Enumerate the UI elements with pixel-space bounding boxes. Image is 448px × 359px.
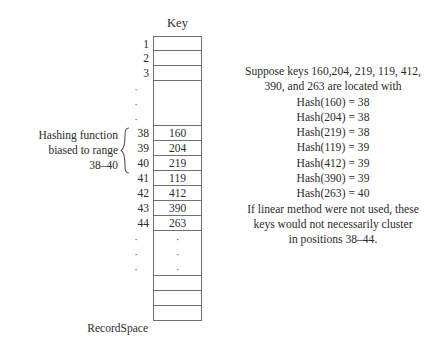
ellipsis-dot: ·: [134, 116, 138, 122]
table-row-last: [153, 306, 202, 321]
row-key-value: 204: [154, 141, 201, 156]
ellipsis-dot: ·: [176, 236, 180, 242]
row-index: 41: [123, 171, 149, 186]
ellipsis-dot: ·: [134, 266, 138, 272]
row-index: 1: [123, 37, 149, 52]
explanation-line-hash-219: Hash(219) = 38: [224, 125, 442, 140]
explanation-line: Suppose keys 160,204, 219, 119, 412,: [224, 64, 442, 79]
row-index: 3: [123, 66, 149, 81]
table-row: 41 119: [153, 171, 202, 186]
hashing-function-line-1: Hashing function: [6, 128, 118, 143]
explanation-line: 390, and 263 are located with: [224, 79, 442, 94]
table-row: 43 390: [153, 201, 202, 216]
table-row: 3: [153, 66, 202, 81]
explanation-line-hash-204: Hash(204) = 38: [224, 110, 442, 125]
row-key-value: 412: [154, 186, 201, 201]
row-key-value: 263: [154, 216, 201, 231]
explanation-line-hash-119: Hash(119) = 39: [224, 140, 442, 155]
hashing-function-line-3: 38–40: [6, 158, 118, 173]
vertical-ellipsis-index-lower: · · ·: [123, 231, 149, 276]
explanation-line-hash-412: Hash(412) = 39: [224, 156, 442, 171]
row-index: 43: [123, 201, 149, 216]
table-row: 2: [153, 51, 202, 66]
ellipsis-dot: ·: [134, 101, 138, 107]
ellipsis-dot: ·: [134, 236, 138, 242]
explanation-line-hash-263: Hash(263) = 40: [224, 186, 442, 201]
explanation-text: Suppose keys 160,204, 219, 119, 412, 390…: [224, 64, 442, 248]
table-row: 39 204: [153, 141, 202, 156]
row-index: 42: [123, 186, 149, 201]
ellipsis-dot: ·: [134, 251, 138, 257]
table-row: 38 160: [153, 126, 202, 141]
explanation-line: keys would not necessarily cluster: [224, 217, 442, 232]
key-column-header: Key: [153, 16, 202, 31]
ellipsis-dot: ·: [176, 251, 180, 257]
explanation-line: If linear method were not used, these: [224, 202, 442, 217]
record-space-table: 1 2 3 · · · 38 160 39 204 40 219 41 119 …: [153, 36, 202, 321]
hashing-function-annotation: Hashing function biased to range 38–40: [6, 128, 118, 173]
table-row-elided-lower: · · · · · ·: [153, 231, 202, 276]
ellipsis-dot: ·: [176, 266, 180, 272]
table-row: 42 412: [153, 186, 202, 201]
row-index: 40: [123, 156, 149, 171]
row-index: 39: [123, 141, 149, 156]
row-key-value: 390: [154, 201, 201, 216]
table-row: [153, 291, 202, 306]
ellipsis-dot: ·: [134, 86, 138, 92]
row-index: 44: [123, 216, 149, 231]
table-row-elided-upper: · · ·: [153, 81, 202, 126]
table-row: [153, 276, 202, 291]
row-key-value: 119: [154, 171, 201, 186]
hashing-function-line-2: biased to range: [6, 143, 118, 158]
explanation-line-hash-160: Hash(160) = 38: [224, 95, 442, 110]
table-row: 1: [153, 36, 202, 51]
row-key-value: 219: [154, 156, 201, 171]
row-index: 38: [123, 126, 149, 141]
table-row: 40 219: [153, 156, 202, 171]
explanation-line: in positions 38–44.: [224, 232, 442, 247]
table-row: 44 263: [153, 216, 202, 231]
row-index: 2: [123, 51, 149, 66]
explanation-line-hash-390: Hash(390) = 39: [224, 171, 442, 186]
vertical-ellipsis-key-lower: · · ·: [154, 231, 201, 276]
recordspace-label: RecordSpace: [60, 321, 148, 336]
vertical-ellipsis-index-upper: · · ·: [123, 81, 149, 126]
row-key-value: 160: [154, 126, 201, 141]
